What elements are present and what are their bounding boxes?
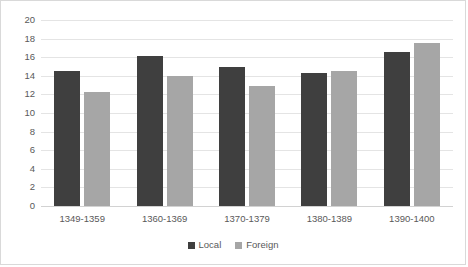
bar-foreign-1370-1379[interactable]: [249, 86, 275, 206]
bar-group: [288, 20, 370, 206]
y-axis-labels: 20181614121086420: [1, 20, 35, 206]
x-axis-tick-1390-1400: 1390-1400: [371, 210, 453, 228]
y-axis-tick-2: 2: [9, 183, 35, 193]
legend-swatch-local-icon: [188, 242, 195, 249]
x-axis-labels: 1349-13591360-13691370-13791380-13891390…: [41, 210, 453, 228]
bar-local-1360-1369[interactable]: [137, 56, 163, 206]
legend-swatch-foreign-icon: [235, 242, 242, 249]
bar-local-1370-1379[interactable]: [219, 67, 245, 207]
y-axis-tick-14: 14: [9, 71, 35, 81]
y-axis-tick-6: 6: [9, 145, 35, 155]
x-axis-tick-1370-1379: 1370-1379: [206, 210, 288, 228]
axis-baseline: [41, 206, 453, 207]
y-axis-tick-10: 10: [9, 108, 35, 118]
y-axis-tick-18: 18: [9, 34, 35, 44]
y-axis-tick-4: 4: [9, 164, 35, 174]
y-axis-tick-16: 16: [9, 52, 35, 62]
bar-groups: [41, 20, 453, 206]
bar-foreign-1349-1359[interactable]: [84, 92, 110, 206]
bar-foreign-1390-1400[interactable]: [414, 43, 440, 206]
bar-local-1349-1359[interactable]: [54, 71, 80, 206]
legend-label: Local: [199, 240, 222, 250]
bar-group: [371, 20, 453, 206]
legend-item-local[interactable]: Local: [188, 240, 222, 250]
bar-group: [206, 20, 288, 206]
y-axis-tick-8: 8: [9, 127, 35, 137]
bar-foreign-1380-1389[interactable]: [331, 71, 357, 206]
x-axis-tick-1360-1369: 1360-1369: [123, 210, 205, 228]
y-axis-tick-12: 12: [9, 90, 35, 100]
bar-group: [41, 20, 123, 206]
bar-local-1380-1389[interactable]: [301, 73, 327, 206]
y-axis-tick-20: 20: [9, 15, 35, 25]
chart-legend: LocalForeign: [1, 237, 465, 253]
x-axis-tick-1380-1389: 1380-1389: [288, 210, 370, 228]
legend-label: Foreign: [246, 240, 278, 250]
plot-area: [41, 20, 453, 206]
legend-item-foreign[interactable]: Foreign: [235, 240, 278, 250]
x-axis-tick-1349-1359: 1349-1359: [41, 210, 123, 228]
bar-foreign-1360-1369[interactable]: [167, 76, 193, 206]
bar-group: [123, 20, 205, 206]
y-axis-tick-0: 0: [9, 201, 35, 211]
bar-local-1390-1400[interactable]: [384, 52, 410, 206]
chart-container: 20181614121086420 1349-13591360-13691370…: [0, 0, 466, 265]
